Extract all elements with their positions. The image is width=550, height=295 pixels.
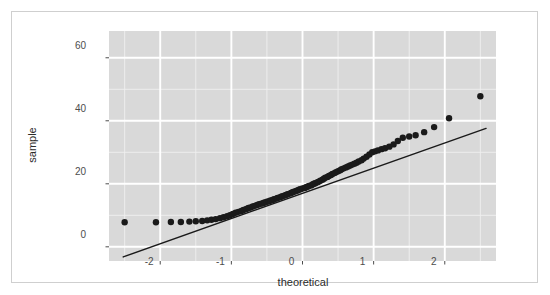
y-tick-label-20: 20 [56,166,86,177]
y-tick-label-60: 60 [56,40,86,51]
data-point [193,218,199,224]
figure-frame: sample theoretical 0204060 -2-1012 [11,11,538,283]
data-point [446,115,452,121]
data-point [153,219,159,225]
x-tick-label-neg2: -2 [134,256,164,267]
x-tick-label-2: 2 [419,256,449,267]
qq-plot-svg [12,12,550,295]
data-point [477,93,483,99]
data-point [412,132,418,138]
data-point [421,129,427,135]
x-tick-label-neg1: -1 [205,256,235,267]
y-tick-label-0: 0 [56,229,86,240]
x-tick-label-1: 1 [348,256,378,267]
data-point [168,219,174,225]
data-point [431,124,437,130]
data-point [186,218,192,224]
data-point [406,133,412,139]
x-tick-label-0: 0 [277,256,307,267]
x-axis-title: theoretical [208,276,398,288]
data-point [178,219,184,225]
y-axis-title: sample [26,105,38,185]
y-tick-label-40: 40 [56,103,86,114]
data-point [121,219,127,225]
data-point [400,135,406,141]
